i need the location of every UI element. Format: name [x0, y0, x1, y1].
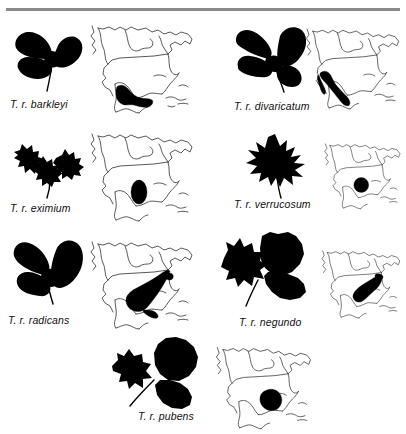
panel-divaricatum: T. r. divaricatum [203, 14, 406, 120]
distribution-map-barkleyi [82, 14, 200, 116]
caption-divaricatum: T. r. divaricatum [234, 100, 310, 112]
caption-pubens: T. r. pubens [138, 410, 194, 422]
caption-radicans: T. r. radicans [8, 314, 69, 326]
panel-eximium: T. r. eximium [0, 122, 203, 228]
leaf-silhouette-negundo [218, 230, 318, 314]
leaf-silhouette-radicans [8, 234, 88, 310]
caption-verrucosum: T. r. verrucosum [234, 198, 311, 210]
panel-pubens: T. r. pubens [100, 336, 406, 434]
panel-barkleyi: T. r. barkleyi [0, 14, 203, 120]
distribution-map-pubens [208, 336, 318, 432]
leaf-silhouette-pubens [110, 336, 220, 420]
distribution-map-eximium [82, 122, 200, 224]
panel-radicans: T. r. radicans [0, 230, 203, 336]
distribution-map-radicans [82, 230, 200, 332]
leaf-silhouette-barkleyi [10, 18, 88, 94]
figure-plate: T. r. barkleyi [0, 0, 406, 434]
panel-verrucosum: T. r. verrucosum [203, 122, 406, 228]
distribution-map-negundo [315, 230, 406, 332]
leaf-silhouette-verrucosum [235, 130, 315, 200]
distribution-map-divaricatum [298, 14, 406, 116]
panel-negundo: T. r. negundo [203, 230, 406, 336]
distribution-map-verrucosum [318, 122, 406, 224]
top-divider-rule [6, 8, 400, 11]
caption-eximium: T. r. eximium [10, 202, 71, 214]
caption-negundo: T. r. negundo [239, 316, 301, 328]
caption-barkleyi: T. r. barkleyi [10, 98, 68, 110]
leaf-silhouette-eximium [10, 134, 86, 200]
